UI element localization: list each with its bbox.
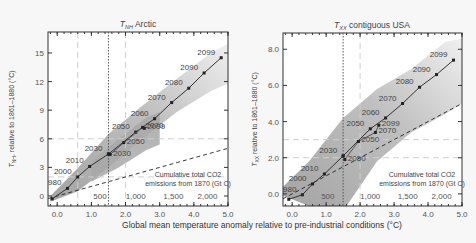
- year-label: 2099: [430, 50, 448, 59]
- figure: 1890198020002010203020502060207020802090…: [0, 0, 476, 243]
- data-point: [435, 73, 438, 76]
- year-label: 2030: [319, 146, 337, 155]
- x-tick-label: 0.0: [52, 210, 64, 219]
- year-label: 2000: [54, 167, 72, 176]
- data-point: [323, 173, 326, 176]
- x-tick-label: 5.0: [456, 210, 468, 219]
- year-label: 2070: [379, 94, 397, 103]
- x-tick-label: 1.0: [86, 210, 98, 219]
- data-point: [418, 86, 421, 89]
- year-label: 2030: [85, 144, 103, 153]
- year-label: 2000: [289, 174, 307, 183]
- year-label: 2050: [361, 135, 379, 144]
- co2-axis-label: Cumulative total CO2: [389, 171, 456, 178]
- data-point: [66, 187, 69, 190]
- data-point: [343, 158, 346, 161]
- year-label: 2050: [127, 137, 145, 146]
- data-point: [220, 56, 223, 59]
- year-label: 2080: [165, 78, 183, 87]
- y-tick-label: 3: [40, 163, 45, 172]
- x-tick-label: 2.0: [355, 210, 367, 219]
- year-label: 2099: [382, 119, 400, 128]
- data-point: [301, 193, 304, 196]
- data-point: [369, 127, 372, 130]
- year-label: 1980: [44, 178, 62, 187]
- data-point: [203, 71, 206, 74]
- x-tick-label: 4.0: [188, 210, 200, 219]
- x-tick-label: 3.0: [154, 210, 166, 219]
- data-point: [187, 87, 190, 90]
- x-tick-label: 1.0: [321, 210, 333, 219]
- x-tick-label: 5.0: [222, 210, 234, 219]
- y-tick-label: 2.0: [268, 154, 280, 163]
- year-label: 2030: [113, 149, 131, 158]
- data-point: [109, 153, 112, 156]
- data-point: [153, 117, 156, 120]
- co2-tick-label: 2,000: [197, 192, 218, 201]
- data-point: [170, 101, 173, 104]
- y-axis-label: TNH, relative to 1861–1880 (°C): [8, 70, 17, 167]
- data-point: [452, 59, 455, 62]
- year-label: 2060: [362, 108, 380, 117]
- co2-axis-label: Cumulative total CO2: [155, 171, 222, 178]
- data-point: [51, 197, 54, 200]
- y-tick-label: 15: [35, 49, 44, 58]
- x-axis-label: Global mean temperature anomaly relative…: [122, 220, 402, 230]
- x-tick-label: 4.0: [422, 210, 434, 219]
- data-point: [287, 198, 290, 201]
- panel-title: TXX contiguous USA: [334, 20, 410, 31]
- y-tick-label: 0: [40, 192, 45, 201]
- data-point: [401, 102, 404, 105]
- data-point: [76, 175, 79, 178]
- year-label: 2090: [180, 63, 198, 72]
- data-point: [311, 182, 314, 185]
- year-label: 2010: [301, 164, 319, 173]
- y-tick-label: 12: [35, 78, 44, 87]
- arctic-panel: 1890198020002010203020502060207020802090…: [8, 19, 234, 219]
- year-label: 2080: [396, 77, 414, 86]
- year-label: 2010: [66, 156, 84, 165]
- co2-tick-label: 2,000: [432, 192, 453, 201]
- panel-title: TNH Arctic: [120, 19, 157, 30]
- co2-tick-label: 1,000: [360, 192, 381, 201]
- y-tick-label: 0.0: [268, 190, 280, 199]
- usa-panel: 1890198020002010203020502060207020802090…: [251, 20, 468, 219]
- co2-tick-label: 500: [93, 192, 107, 201]
- y-tick-label: 9: [40, 106, 45, 115]
- year-label: 2099: [197, 48, 215, 57]
- year-label: 2050: [112, 122, 130, 131]
- co2-tick-label: 1,000: [126, 192, 147, 201]
- data-point: [88, 165, 91, 168]
- data-point: [122, 141, 125, 144]
- co2-axis-label: emissions from 1870 (Gt C): [145, 180, 231, 188]
- data-point: [342, 154, 345, 157]
- year-label: 2060: [131, 109, 149, 118]
- x-tick-label: 3.0: [389, 210, 401, 219]
- year-label: 2050: [346, 119, 364, 128]
- x-tick-label: 0.0: [287, 210, 299, 219]
- co2-tick-label: 1,500: [398, 192, 419, 201]
- co2-tick-label: 500: [321, 192, 335, 201]
- y-axis-label: TXX relative to 1861–1880 (°C): [251, 72, 260, 167]
- x-tick-label: 2.0: [120, 210, 132, 219]
- y-tick-label: 4.0: [268, 118, 280, 127]
- year-label: 2050: [348, 154, 366, 163]
- year-label: 2070: [148, 93, 166, 102]
- y-tick-label: 8.0: [268, 45, 280, 54]
- y-tick-label: 6.0: [268, 81, 280, 90]
- year-label: 2090: [413, 65, 431, 74]
- data-point: [357, 140, 360, 143]
- data-point: [377, 124, 380, 127]
- co2-tick-label: 1,500: [163, 192, 184, 201]
- year-label: 2099: [147, 122, 165, 131]
- data-point: [374, 131, 377, 134]
- data-point: [143, 127, 146, 130]
- year-label: 1980: [279, 185, 297, 194]
- co2-axis-label: emissions from 1870 (Gt C): [379, 180, 465, 188]
- y-tick-label: 6: [40, 135, 45, 144]
